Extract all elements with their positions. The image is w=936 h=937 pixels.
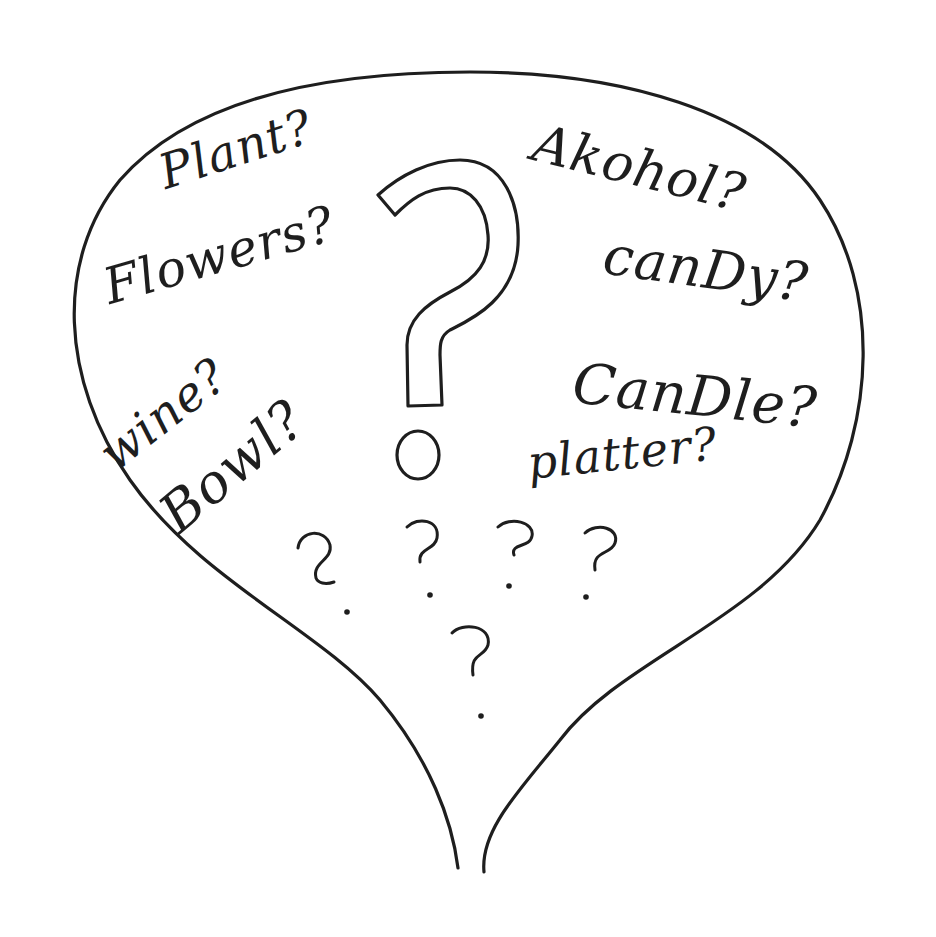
thought-bubble-illustration: Plant? Flowers? wine? Bowl? Akohol? canD… [0,0,936,937]
large-question-mark-icon [378,160,518,479]
small-question-marks [298,521,616,719]
speech-bubble-outline [0,0,936,937]
